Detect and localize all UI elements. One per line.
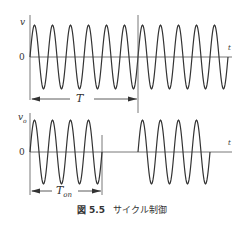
top-plot — [30, 15, 232, 113]
figure-caption: 図 5.5サイクル制御 — [0, 203, 244, 216]
bottom-y-label: vo — [18, 113, 27, 124]
bottom-plot — [30, 113, 232, 195]
bottom-x-label: t — [228, 140, 231, 147]
top-zero-label: 0 — [19, 53, 25, 62]
top-x-label: t — [228, 45, 231, 52]
caption-number: 図 5.5 — [77, 205, 105, 215]
caption-text: サイクル制御 — [113, 205, 167, 215]
period-label: T — [76, 93, 83, 104]
arrow-head-right-icon — [128, 97, 137, 102]
arrow-head-left-icon — [31, 189, 40, 194]
cycle-control-diagram — [0, 0, 244, 226]
bottom-zero-label: 0 — [19, 148, 25, 157]
top-y-label: v — [20, 18, 25, 27]
arrow-head-left-icon — [31, 97, 40, 102]
on-period-label: Ton — [56, 185, 72, 199]
arrow-head-right-icon — [92, 189, 101, 194]
